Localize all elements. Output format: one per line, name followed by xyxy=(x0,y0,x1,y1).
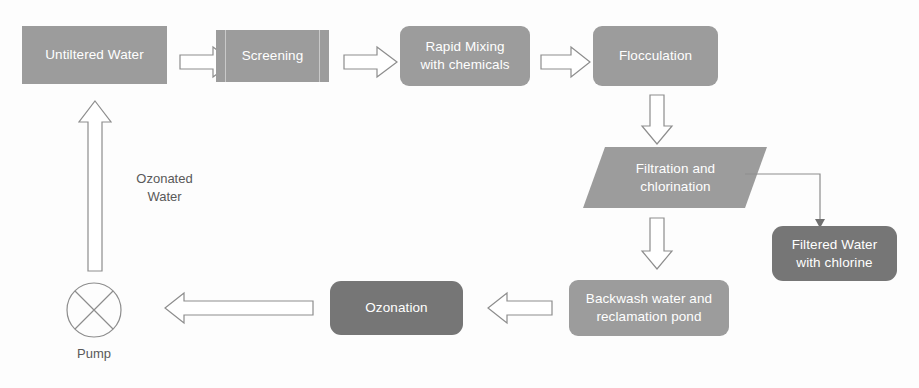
node-label-ozonation: Ozonation xyxy=(365,299,427,317)
arrow-flocculation-to-filtration xyxy=(641,95,673,145)
node-screening[interactable]: Screening xyxy=(216,30,329,82)
node-flocculation[interactable]: Flocculation xyxy=(593,26,718,86)
node-filtered-water[interactable]: Filtered Water with chlorine xyxy=(772,226,897,281)
node-rapid-mixing[interactable]: Rapid Mixing with chemicals xyxy=(400,26,530,86)
node-backwash[interactable]: Backwash water and reclamation pond xyxy=(569,280,729,336)
arrow-screening-to-rapid-mixing xyxy=(344,46,398,78)
pump-label: Pump xyxy=(54,345,134,363)
connector-filtration-to-filtered-water xyxy=(745,173,855,233)
arrow-rapid-mixing-to-flocculation xyxy=(541,46,591,78)
arrow-backwash-to-ozonation xyxy=(487,292,553,324)
node-label-screening: Screening xyxy=(242,47,304,65)
arrow-ozonation-to-pump xyxy=(164,292,314,324)
node-label-filtered-water: Filtered Water with chlorine xyxy=(792,236,878,272)
node-label-unfiltered-water: Untiltered Water xyxy=(45,46,144,64)
node-label-flocculation: Flocculation xyxy=(619,47,692,65)
node-unfiltered-water[interactable]: Untiltered Water xyxy=(22,26,167,84)
arrow-pump-to-unfiltered-water xyxy=(78,100,112,272)
node-label-filtration: Filtration and chlorination xyxy=(636,160,715,196)
node-label-backwash: Backwash water and reclamation pond xyxy=(586,290,712,326)
node-ozonation[interactable]: Ozonation xyxy=(330,281,463,335)
node-filtration[interactable]: Filtration and chlorination xyxy=(583,147,768,209)
node-label-rapid-mixing: Rapid Mixing with chemicals xyxy=(420,38,509,74)
process-flow-diagram: Untiltered Water Screening Rapid Mixing … xyxy=(0,0,919,388)
pump-symbol-icon[interactable] xyxy=(65,281,123,339)
ozonated-water-label: Ozonated Water xyxy=(112,170,217,205)
arrow-filtration-to-backwash xyxy=(641,218,673,270)
